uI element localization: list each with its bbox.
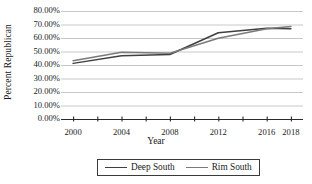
- legend-line-swatch-deep-south: [105, 167, 127, 168]
- legend-label-deep-south: Deep South: [131, 162, 175, 173]
- legend-item-deep-south: Deep South: [105, 162, 175, 173]
- line-chart: Percent Republican 0.00%10.00%20.00%30.0…: [0, 0, 312, 184]
- series-line-deep-south: [73, 28, 291, 63]
- series-line-rim-south: [73, 27, 291, 61]
- legend-item-rim-south: Rim South: [186, 162, 252, 173]
- legend-line-swatch-rim-south: [186, 167, 208, 168]
- plot-area: [0, 0, 312, 184]
- x-axis-title: Year: [0, 136, 312, 146]
- legend-label-rim-south: Rim South: [212, 162, 252, 173]
- chart-legend: Deep South Rim South: [97, 159, 260, 176]
